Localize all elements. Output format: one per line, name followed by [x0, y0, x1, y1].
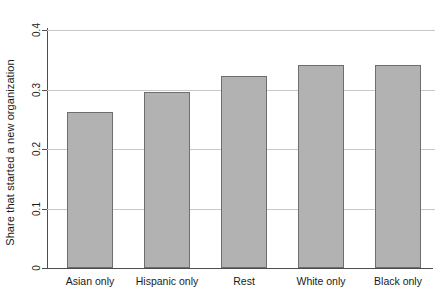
y-axis-title: Share that started a new organization [0, 0, 20, 305]
bar [298, 65, 344, 268]
y-axis-tick-label: 0.1 [31, 194, 43, 224]
y-axis-tick-label: 0.2 [31, 134, 43, 164]
y-axis-tick-label: 0.3 [31, 75, 43, 105]
x-axis-line [47, 268, 433, 269]
bar-chart: Share that started a new organization 00… [0, 0, 440, 305]
bar [67, 112, 113, 268]
bar [144, 92, 190, 268]
bar [375, 65, 421, 268]
y-axis-tick-label: 0.4 [31, 15, 43, 45]
bar [221, 76, 267, 268]
gridline [47, 30, 435, 31]
x-axis-label: Black only [348, 274, 440, 288]
